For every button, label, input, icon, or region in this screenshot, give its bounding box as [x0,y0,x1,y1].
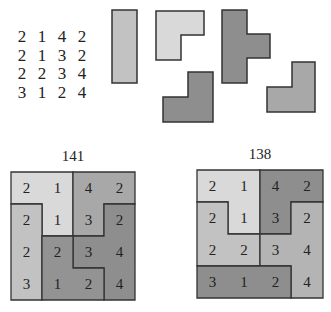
light-l-piece [156,11,204,60]
grid-cell: 3 [11,268,42,300]
grid-cell: 3 [73,236,104,268]
grid-cell: 2 [11,236,42,268]
grid-cell: 4 [73,172,104,204]
grid-score-title: 141 [11,148,135,165]
grid-cell: 3 [260,202,291,234]
grid-cell: 2 [197,202,228,234]
grid-score-title: 138 [197,146,323,163]
grid-cell: 2 [228,234,260,266]
grid-cell: 3 [73,204,104,236]
solution-grid-138: 138 2 1 4 2 2 1 3 2 2 2 3 4 3 1 2 4 [197,144,323,304]
grid-cell: 2 [104,172,135,204]
t-piece [222,10,270,83]
dark-l-piece [163,72,213,122]
grid-cell: 1 [228,266,260,298]
grid-cell: 4 [291,234,323,266]
grid-cell: 2 [104,204,135,236]
grid-cell: 2 [11,204,42,236]
grid-cell: 1 [42,268,73,300]
grid-cell: 4 [291,266,323,298]
grid-cell: 3 [197,266,228,298]
grid-cell: 1 [228,170,260,202]
grid-cell: 2 [197,170,228,202]
grid-cell: 1 [228,202,260,234]
grid-cell: 2 [73,268,104,300]
vertical-bar-piece [112,10,137,83]
grid-cell: 2 [291,170,323,202]
grid-cell: 4 [104,268,135,300]
grid-cell: 4 [260,170,291,202]
grid-cell: 2 [291,202,323,234]
grid-cell: 3 [260,234,291,266]
grid-cell: 2 [42,236,73,268]
grid-cell: 4 [104,236,135,268]
medium-l-piece [267,62,315,112]
grid-cell: 1 [42,172,73,204]
solution-grid-141: 141 2 1 4 2 2 1 3 2 2 2 3 4 3 1 2 4 [11,146,135,306]
grid-cell: 1 [42,204,73,236]
grid-cell: 2 [11,172,42,204]
grid-cell: 2 [260,266,291,298]
grid-cell: 2 [197,234,228,266]
pieces-tray [0,0,331,130]
